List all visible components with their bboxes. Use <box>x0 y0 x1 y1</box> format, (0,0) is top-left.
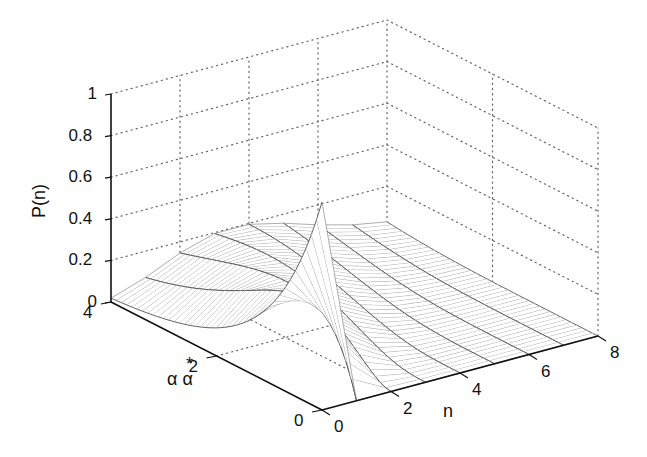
z-tick-label: 0.6 <box>69 168 93 185</box>
n-tick-label: 2 <box>403 400 412 417</box>
surface-plot <box>0 0 647 457</box>
z-tick-label: 1 <box>88 85 97 102</box>
n-tick-label: 8 <box>610 344 619 361</box>
z-tick-label: 0.4 <box>69 210 93 227</box>
alpha-tick-label: 4 <box>83 304 92 321</box>
z-tick-label: 0.2 <box>69 251 93 268</box>
z-axis-title: P(n) <box>30 184 48 218</box>
n-tick-label: 6 <box>541 363 550 380</box>
alpha-axis-title: α α <box>167 370 193 388</box>
z-tick-label: 0.8 <box>69 127 93 144</box>
n-axis-title: n <box>443 402 453 420</box>
alpha-tick-label: 0 <box>294 412 303 429</box>
n-tick-label: 0 <box>334 418 343 435</box>
n-tick-label: 4 <box>472 381 481 398</box>
